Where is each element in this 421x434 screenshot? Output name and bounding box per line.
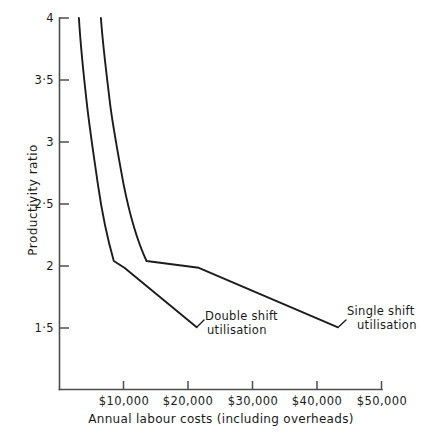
leader-line-single	[339, 320, 346, 327]
annotation-double-shift-line1: Double shift	[205, 309, 278, 323]
y-tick-label-4: 4	[4, 11, 54, 25]
annotation-single-shift-line2: utilisation	[347, 319, 417, 333]
x-axis-label: Annual labour costs (including overheads…	[56, 412, 386, 426]
annotation-double-shift-line2: utilisation	[205, 324, 278, 338]
annotation-double-shift: Double shift utilisation	[205, 310, 278, 337]
y-tick-label-1-5: 1·5	[4, 321, 54, 335]
y-tick-label-3-5: 3·5	[4, 73, 54, 87]
x-tick-marks	[124, 381, 382, 390]
y-axis-label: Productivity ratio	[26, 120, 40, 280]
curve-double-shift	[79, 18, 197, 327]
x-tick-label-50000: $50,000	[341, 394, 421, 408]
curve-single-shift	[101, 18, 338, 327]
leader-line-double	[198, 320, 205, 327]
y-tick-marks	[60, 18, 70, 328]
annotation-single-shift-line1: Single shift	[347, 304, 414, 318]
annotation-single-shift: Single shift utilisation	[347, 305, 417, 332]
